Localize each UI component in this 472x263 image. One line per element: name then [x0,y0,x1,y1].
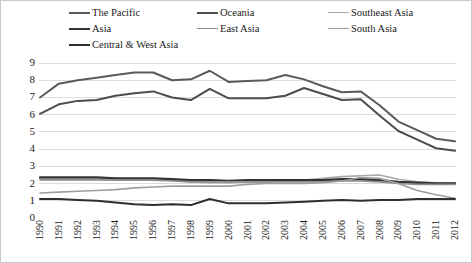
y-tick-label: 4 [17,143,35,154]
x-tick-label: 2003 [280,220,290,240]
x-tick-label: 1998 [186,220,196,240]
legend-item[interactable]: East Asia [197,23,259,34]
y-tick-label: 7 [17,91,35,102]
y-tick-label: 1 [17,195,35,206]
x-tick-label: 2002 [261,220,271,240]
x-tick-label: 2001 [243,220,253,240]
legend-label: The Pacific [92,7,140,18]
y-tick-label: 3 [17,160,35,171]
legend-line-icon [197,28,218,29]
legend-label: South Asia [351,23,397,34]
legend-label: East Asia [220,23,259,34]
x-tick-label: 1996 [148,220,158,240]
x-tick-label: 2011 [431,220,441,240]
legend-label: Southeast Asia [351,7,413,18]
legend-item[interactable]: Southeast Asia [328,7,413,18]
x-tick-label: 2007 [356,220,366,240]
legend-item[interactable]: South Asia [328,23,397,34]
legend-item[interactable]: Asia [69,23,111,34]
x-tick-label: 1993 [92,220,102,240]
x-axis: 1990199119921993199419951996199719981999… [39,220,456,262]
legend-label: Asia [92,23,111,34]
x-tick-label: 2005 [318,220,328,240]
legend-line-icon [197,12,218,14]
y-tick-label: 6 [17,109,35,120]
y-axis: 0123456789 [13,63,35,218]
x-tick-label: 2000 [224,220,234,240]
legend-label: Central & West Asia [92,39,178,50]
series-line-the-pacific [40,71,455,142]
x-tick-label: 1994 [110,220,120,240]
x-tick-label: 2006 [337,220,347,240]
y-tick-label: 8 [17,74,35,85]
legend-line-icon [69,28,90,30]
x-tick-label: 1990 [35,220,45,240]
legend-line-icon [328,12,349,13]
legend-item[interactable]: Central & West Asia [69,39,178,50]
plot-area [39,63,456,218]
x-tick-label: 2008 [375,220,385,240]
x-tick-label: 1995 [129,220,139,240]
x-tick-label: 2010 [412,220,422,240]
y-tick-label: 2 [17,178,35,189]
series-canvas [39,63,456,218]
legend-label: Oceania [220,7,254,18]
x-tick-label: 1992 [73,220,83,240]
series-line-central-west-asia [40,199,455,205]
x-tick-label: 2012 [450,220,460,240]
legend-item[interactable]: The Pacific [69,7,140,18]
legend-item[interactable]: Oceania [197,7,254,18]
x-tick-label: 1991 [54,220,64,240]
y-tick-label: 5 [17,126,35,137]
chart-legend: The PacificOceaniaSoutheast AsiaAsiaEast… [1,7,472,57]
legend-line-icon [69,44,90,46]
x-tick-label: 2009 [393,220,403,240]
y-tick-label: 9 [17,57,35,68]
legend-line-icon [328,28,349,29]
x-tick-label: 1999 [205,220,215,240]
x-tick-label: 2004 [299,220,309,240]
legend-line-icon [69,12,90,14]
y-tick-label: 0 [17,212,35,223]
chart-figure: The PacificOceaniaSoutheast AsiaAsiaEast… [0,0,472,263]
x-tick-label: 1997 [167,220,177,240]
